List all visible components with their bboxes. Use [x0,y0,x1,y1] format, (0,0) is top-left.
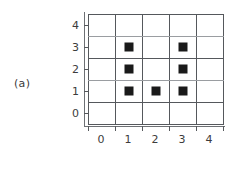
y-axis-tick [84,69,89,70]
y-axis-tick [84,91,89,92]
data-point [124,43,133,52]
gridline-vertical [115,14,116,124]
y-axis-label-4: 4 [72,19,79,32]
data-point [178,43,187,52]
gridline-vertical [169,14,170,124]
gridline-horizontal [88,102,224,103]
gridline-vertical [142,14,143,124]
x-axis-label-2: 2 [152,133,159,146]
plot-grid-area [88,14,224,124]
data-point [124,87,133,96]
data-point [124,65,133,74]
y-axis-label-2: 2 [72,63,79,76]
scatter-plot: 4 3 2 1 0 0 1 2 3 4 [88,14,224,124]
x-axis-tick [223,126,224,131]
data-point [151,87,160,96]
gridline-horizontal [88,14,224,15]
gridline-vertical [223,14,224,124]
y-axis-tick [84,47,89,48]
x-axis-spine [84,126,225,127]
x-axis-label-0: 0 [98,133,105,146]
x-axis-tick [88,126,89,131]
gridline-vertical [196,14,197,124]
x-axis-label-4: 4 [206,133,213,146]
y-axis-tick [84,113,89,114]
x-axis-label-1: 1 [125,133,132,146]
y-axis-tick [84,25,89,26]
gridline-horizontal [88,80,224,81]
x-axis-label-3: 3 [179,133,186,146]
data-point [178,87,187,96]
figure-label: (a) [14,77,30,90]
y-axis-label-3: 3 [72,41,79,54]
y-axis-label-0: 0 [72,107,79,120]
data-point [178,65,187,74]
gridline-horizontal [88,36,224,37]
x-axis-tick [196,126,197,131]
x-axis-tick [169,126,170,131]
y-axis-label-1: 1 [72,85,79,98]
gridline-horizontal [88,124,224,125]
x-axis-tick [142,126,143,131]
x-axis-tick [115,126,116,131]
gridline-horizontal [88,58,224,59]
